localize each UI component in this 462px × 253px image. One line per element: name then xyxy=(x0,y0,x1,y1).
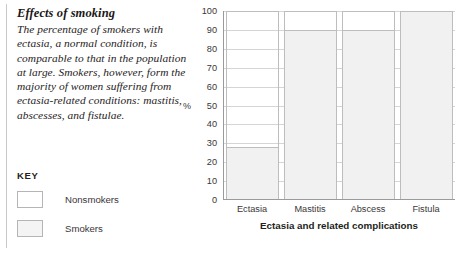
y-tick-50: 50 xyxy=(207,101,217,111)
x-tick-fistula: Fistula xyxy=(412,204,439,214)
bar-ectasia xyxy=(226,147,279,200)
legend-swatch-smokers xyxy=(17,220,43,237)
x-tick-mastitis: Mastitis xyxy=(294,204,325,214)
x-axis-title: Ectasia and related complications xyxy=(223,220,455,231)
legend-item-nonsmokers: Nonsmokers xyxy=(17,188,189,210)
y-tick-0: 0 xyxy=(212,195,217,205)
bar-abscess xyxy=(342,30,395,200)
y-tick-40: 40 xyxy=(207,119,217,129)
bar-fistula xyxy=(400,11,453,200)
plot-area xyxy=(223,11,455,200)
legend-key-title: KEY xyxy=(17,170,189,181)
y-tick-60: 60 xyxy=(207,82,217,92)
story-panel: Effects of smoking The percentage of smo… xyxy=(17,6,189,122)
legend-label-smokers: Smokers xyxy=(65,223,103,234)
y-tick-10: 10 xyxy=(207,176,217,186)
y-axis-tick-labels: 0102030405060708090100 xyxy=(191,4,217,200)
left-divider-rule xyxy=(6,4,7,248)
x-tick-abscess: Abscess xyxy=(351,204,386,214)
story-title: Effects of smoking xyxy=(17,6,189,21)
figure-root: Effects of smoking The percentage of smo… xyxy=(0,0,462,253)
y-tick-90: 90 xyxy=(207,25,217,35)
bar-column-fistula xyxy=(400,11,453,200)
bar-column-abscess xyxy=(342,11,395,200)
legend-item-smokers: Smokers xyxy=(17,217,189,239)
legend-label-nonsmokers: Nonsmokers xyxy=(65,194,119,205)
bar-column-mastitis xyxy=(284,11,337,200)
bar-column-ectasia xyxy=(226,11,279,200)
bar-mastitis xyxy=(284,30,337,200)
legend-key: KEY Nonsmokers Smokers xyxy=(17,170,189,246)
y-tick-30: 30 xyxy=(207,138,217,148)
y-axis-title: % xyxy=(183,101,191,111)
story-body-text: The percentage of smokers with ectasia, … xyxy=(17,22,189,122)
x-tick-ectasia: Ectasia xyxy=(237,204,267,214)
legend-swatch-nonsmokers xyxy=(17,191,43,208)
y-tick-100: 100 xyxy=(202,6,217,16)
bar-chart: % 0102030405060708090100 EctasiaMastitis… xyxy=(183,4,459,250)
x-axis-tick-labels: EctasiaMastitisAbscessFistula xyxy=(223,204,455,218)
y-tick-70: 70 xyxy=(207,63,217,73)
bar-series-smokers xyxy=(223,11,455,200)
y-tick-80: 80 xyxy=(207,44,217,54)
y-tick-20: 20 xyxy=(207,157,217,167)
